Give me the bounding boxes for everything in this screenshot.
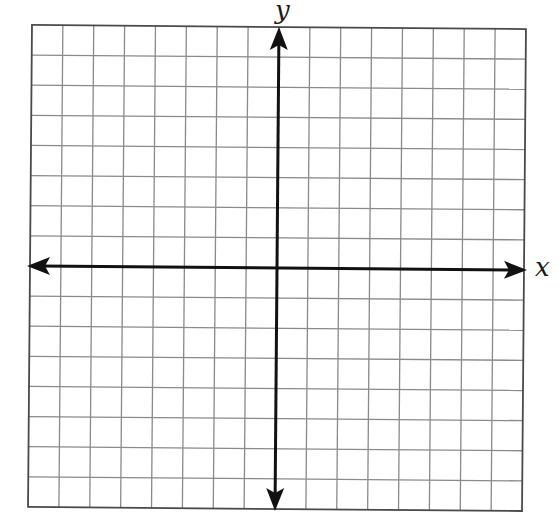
y-axis-label: y — [274, 0, 290, 25]
grid-group — [25, 25, 529, 513]
coordinate-plane: y x — [0, 0, 559, 526]
x-axis-label: x — [535, 252, 550, 282]
